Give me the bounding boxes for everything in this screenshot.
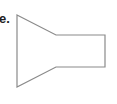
funnel-shape-figure <box>0 0 117 104</box>
funnel-shape-outline <box>17 15 105 87</box>
